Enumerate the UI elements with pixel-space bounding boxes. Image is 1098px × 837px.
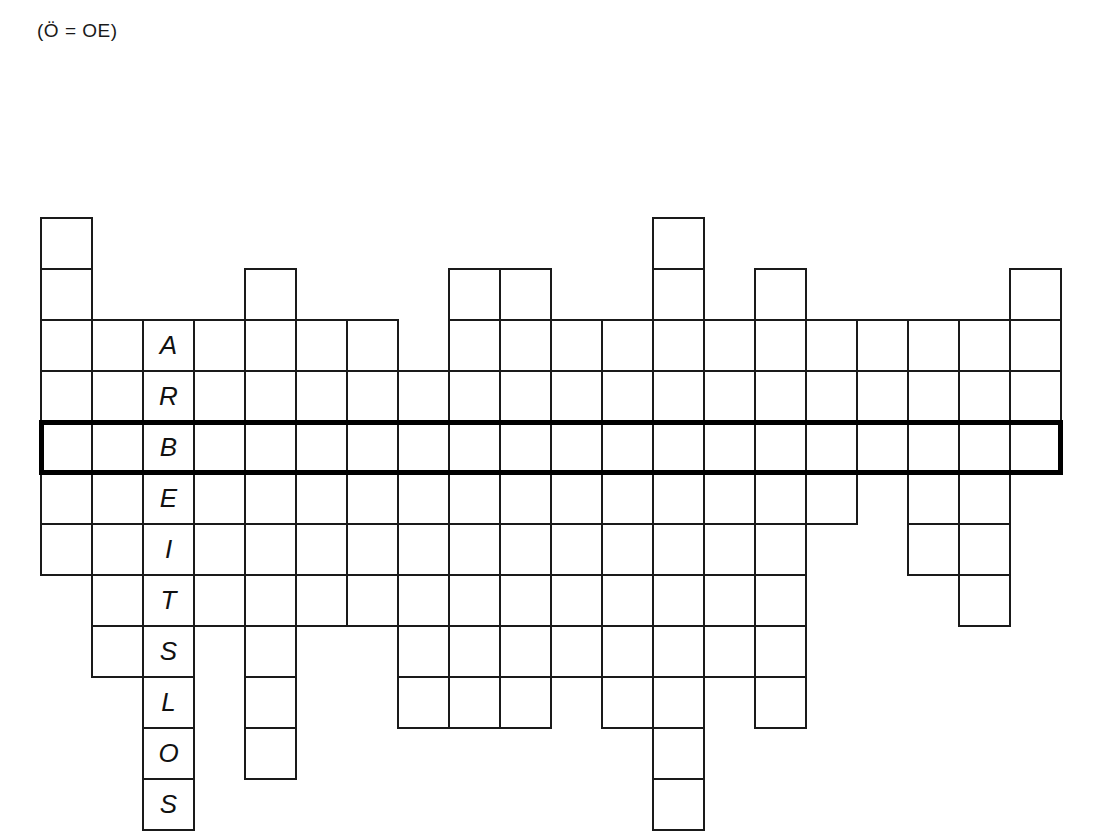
crossword-cell[interactable]: [805, 421, 858, 474]
crossword-cell[interactable]: [805, 319, 858, 372]
crossword-cell[interactable]: [652, 727, 705, 780]
crossword-cell[interactable]: [91, 370, 144, 423]
crossword-cell-filled[interactable]: B: [142, 421, 195, 474]
crossword-cell[interactable]: [397, 370, 450, 423]
crossword-cell[interactable]: [397, 676, 450, 729]
crossword-cell[interactable]: [856, 370, 909, 423]
crossword-cell[interactable]: [448, 676, 501, 729]
crossword-cell[interactable]: [754, 676, 807, 729]
crossword-cell[interactable]: [601, 523, 654, 576]
crossword-cell[interactable]: [601, 472, 654, 525]
crossword-cell[interactable]: [448, 268, 501, 321]
crossword-cell[interactable]: [754, 574, 807, 627]
crossword-cell-filled[interactable]: A: [142, 319, 195, 372]
crossword-cell[interactable]: [40, 319, 93, 372]
crossword-cell[interactable]: [448, 523, 501, 576]
crossword-cell[interactable]: [295, 574, 348, 627]
crossword-cell[interactable]: [193, 472, 246, 525]
crossword-cell[interactable]: [907, 421, 960, 474]
crossword-cell[interactable]: [244, 727, 297, 780]
crossword-cell[interactable]: [40, 370, 93, 423]
crossword-cell[interactable]: [754, 268, 807, 321]
crossword-cell[interactable]: [244, 574, 297, 627]
crossword-cell[interactable]: [295, 421, 348, 474]
crossword-cell[interactable]: [499, 268, 552, 321]
crossword-cell[interactable]: [244, 319, 297, 372]
crossword-cell[interactable]: [346, 319, 399, 372]
crossword-cell[interactable]: [907, 370, 960, 423]
crossword-cell[interactable]: [346, 370, 399, 423]
crossword-cell[interactable]: [40, 268, 93, 321]
crossword-cell[interactable]: [40, 472, 93, 525]
crossword-cell[interactable]: [601, 676, 654, 729]
crossword-cell[interactable]: [601, 625, 654, 678]
crossword-cell[interactable]: [652, 625, 705, 678]
crossword-cell[interactable]: [703, 523, 756, 576]
crossword-cell[interactable]: [40, 217, 93, 270]
crossword-cell[interactable]: [703, 574, 756, 627]
crossword-cell[interactable]: [754, 370, 807, 423]
crossword-cell[interactable]: [244, 472, 297, 525]
crossword-cell-filled[interactable]: O: [142, 727, 195, 780]
crossword-cell[interactable]: [346, 574, 399, 627]
crossword-cell[interactable]: [295, 523, 348, 576]
crossword-cell[interactable]: [244, 523, 297, 576]
crossword-cell[interactable]: [805, 472, 858, 525]
crossword-cell[interactable]: [907, 319, 960, 372]
crossword-cell[interactable]: [652, 523, 705, 576]
crossword-cell[interactable]: [244, 268, 297, 321]
crossword-cell[interactable]: [193, 574, 246, 627]
crossword-cell[interactable]: [295, 472, 348, 525]
crossword-cell[interactable]: [754, 523, 807, 576]
crossword-cell[interactable]: [1009, 319, 1062, 372]
crossword-cell[interactable]: [448, 370, 501, 423]
crossword-cell[interactable]: [193, 319, 246, 372]
crossword-cell-filled[interactable]: E: [142, 472, 195, 525]
crossword-cell[interactable]: [652, 574, 705, 627]
crossword-cell[interactable]: [397, 421, 450, 474]
crossword-cell-filled[interactable]: S: [142, 625, 195, 678]
crossword-cell[interactable]: [499, 676, 552, 729]
crossword-cell[interactable]: [703, 421, 756, 474]
crossword-cell[interactable]: [601, 370, 654, 423]
crossword-cell[interactable]: [499, 523, 552, 576]
crossword-cell[interactable]: [193, 523, 246, 576]
crossword-cell[interactable]: [550, 625, 603, 678]
crossword-cell[interactable]: [907, 523, 960, 576]
crossword-cell[interactable]: [652, 778, 705, 831]
crossword-cell[interactable]: [805, 370, 858, 423]
crossword-cell[interactable]: [448, 319, 501, 372]
crossword-cell[interactable]: [703, 472, 756, 525]
crossword-cell[interactable]: [346, 472, 399, 525]
crossword-cell[interactable]: [550, 472, 603, 525]
crossword-cell[interactable]: [601, 574, 654, 627]
crossword-cell[interactable]: [652, 472, 705, 525]
crossword-cell[interactable]: [550, 319, 603, 372]
crossword-cell[interactable]: [754, 421, 807, 474]
crossword-cell-filled[interactable]: R: [142, 370, 195, 423]
crossword-cell[interactable]: [91, 523, 144, 576]
crossword-cell[interactable]: [550, 370, 603, 423]
crossword-cell[interactable]: [652, 676, 705, 729]
crossword-cell[interactable]: [703, 370, 756, 423]
crossword-cell[interactable]: [448, 574, 501, 627]
crossword-cell[interactable]: [346, 421, 399, 474]
crossword-cell[interactable]: [40, 421, 93, 474]
crossword-cell[interactable]: [448, 472, 501, 525]
crossword-cell[interactable]: [703, 625, 756, 678]
crossword-cell[interactable]: [448, 421, 501, 474]
crossword-cell[interactable]: [856, 319, 909, 372]
crossword-cell[interactable]: [499, 319, 552, 372]
crossword-cell[interactable]: [958, 370, 1011, 423]
crossword-cell[interactable]: [244, 421, 297, 474]
crossword-cell[interactable]: [91, 421, 144, 474]
crossword-cell-filled[interactable]: S: [142, 778, 195, 831]
crossword-cell[interactable]: [397, 625, 450, 678]
crossword-cell-filled[interactable]: T: [142, 574, 195, 627]
crossword-cell[interactable]: [40, 523, 93, 576]
crossword-cell[interactable]: [499, 472, 552, 525]
crossword-cell[interactable]: [652, 421, 705, 474]
crossword-cell[interactable]: [1009, 370, 1062, 423]
crossword-cell[interactable]: [91, 574, 144, 627]
crossword-cell[interactable]: [958, 421, 1011, 474]
